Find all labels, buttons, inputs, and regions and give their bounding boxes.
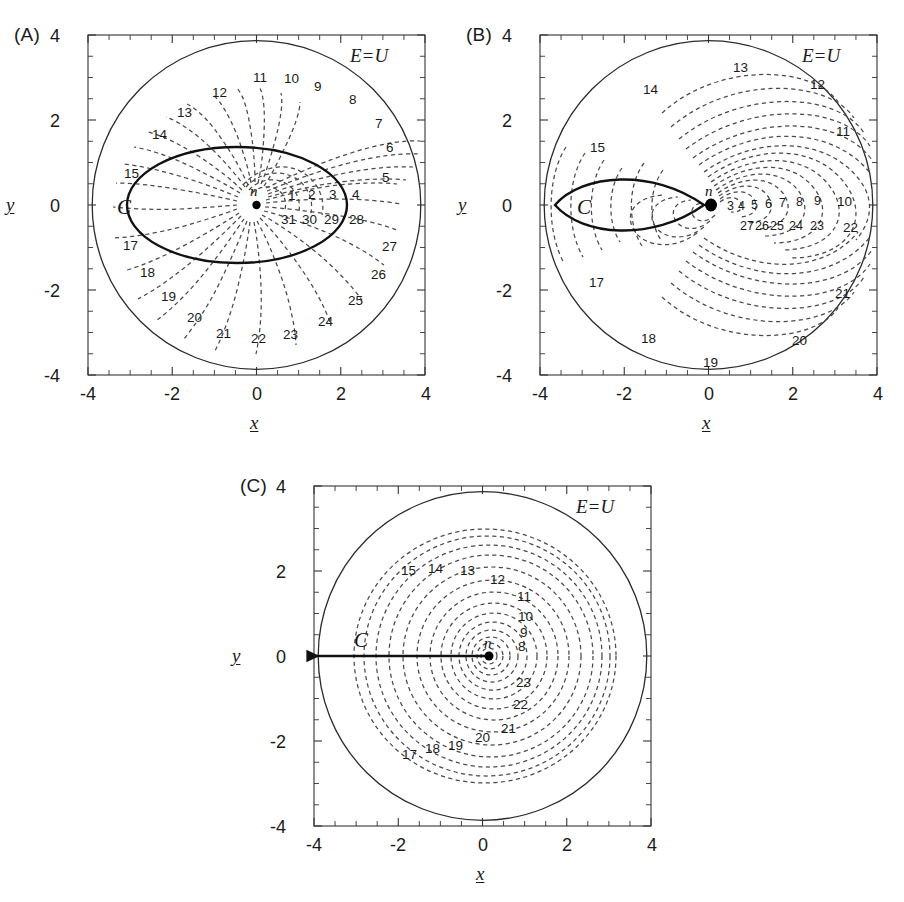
contour-label-4: 4 (352, 187, 360, 202)
contour-label-6: 6 (765, 197, 772, 211)
contour-label-15: 15 (124, 166, 139, 181)
contour-label-13: 13 (177, 105, 192, 120)
panel-b-plot: E=U (452, 0, 904, 451)
contour-label-15: 15 (401, 563, 416, 578)
panel-c-center-label: n (484, 635, 492, 651)
panel-c-plot: E=U C n (226, 451, 678, 902)
contour-label-31: 31 (281, 212, 296, 227)
contour-label-17: 17 (402, 747, 417, 762)
contour-label-23: 23 (283, 327, 298, 342)
contour-label-12: 12 (810, 77, 825, 92)
contour-label-25: 25 (348, 293, 363, 308)
contour-label-24: 24 (789, 219, 803, 233)
contour-label-27: 27 (740, 219, 754, 233)
panel-c-eu-annotation: E=U (575, 496, 615, 517)
contour-label-11: 11 (253, 70, 267, 85)
contour-label-26: 26 (371, 267, 386, 282)
contour-label-13: 13 (733, 60, 748, 75)
contour-label-5: 5 (751, 198, 758, 212)
contour-label-5: 5 (382, 170, 390, 185)
panel-c-center-point (485, 652, 494, 661)
contour-label-19: 19 (703, 355, 718, 370)
contour-label-19: 19 (161, 289, 176, 304)
panel-a-center-point (252, 201, 260, 209)
panel-a-eu-annotation: E=U (349, 45, 389, 66)
contour-label-28: 28 (349, 212, 364, 227)
contour-label-3: 3 (727, 199, 734, 213)
contour-label-20: 20 (187, 310, 202, 325)
contour-label-22: 22 (843, 220, 858, 235)
contour-label-8: 8 (518, 639, 526, 654)
contour-label-8: 8 (796, 195, 803, 209)
contour-label-11: 11 (517, 589, 531, 604)
contour-label-8: 8 (349, 92, 357, 107)
contour-label-22: 22 (251, 331, 266, 346)
contour-label-29: 29 (324, 212, 339, 227)
contour-label-21: 21 (216, 326, 231, 341)
contour-label-9: 9 (814, 194, 821, 208)
contour-label-19: 19 (448, 738, 463, 753)
contour-label-7: 7 (779, 196, 786, 210)
contour-label-14: 14 (643, 82, 659, 97)
contour-label-10: 10 (837, 194, 852, 209)
contour-label-25: 25 (770, 219, 784, 233)
panel-b-center-label: n (705, 183, 713, 199)
contour-label-17: 17 (123, 238, 138, 253)
contour-label-13: 13 (460, 563, 475, 578)
panel-c-caustic-label: C (354, 628, 369, 652)
panel-c-contour-labels: 8 9 10 11 12 13 14 15 17 18 19 20 21 22 … (401, 561, 533, 762)
contour-label-21: 21 (835, 286, 850, 301)
contour-label-4: 4 (738, 199, 745, 213)
contour-label-18: 18 (140, 265, 155, 280)
contour-label-24: 24 (318, 314, 334, 329)
contour-label-23: 23 (810, 219, 824, 233)
panel-a-center-label: n (250, 183, 258, 199)
contour-label-21: 21 (501, 721, 516, 736)
contour-label-15: 15 (590, 140, 605, 155)
contour-label-12: 12 (212, 85, 227, 100)
panel-c: (C) 4 2 0 -2 -4 y -4 -2 0 2 4 x (226, 451, 678, 902)
contour-label-18: 18 (641, 331, 656, 346)
contour-label-6: 6 (386, 140, 394, 155)
panel-a-caustic-label: C (117, 195, 132, 219)
panel-a: (A) 4 2 0 -2 -4 y -4 -2 0 2 4 x (0, 0, 452, 451)
contour-label-18: 18 (425, 741, 440, 756)
contour-label-27: 27 (382, 239, 397, 254)
panel-b-caustic-label: C (577, 195, 592, 219)
panel-b-contour-labels: 3 4 5 6 7 8 9 10 11 12 13 14 15 17 18 19… (589, 60, 858, 370)
contour-label-22: 22 (513, 697, 528, 712)
contour-label-17: 17 (589, 275, 604, 290)
contour-label-9: 9 (314, 79, 322, 94)
contour-label-26: 26 (755, 219, 769, 233)
contour-label-23: 23 (516, 675, 531, 690)
panel-b-center-point (705, 199, 717, 212)
contour-label-10: 10 (518, 609, 533, 624)
contour-label-20: 20 (792, 333, 807, 348)
contour-label-7: 7 (375, 116, 383, 131)
panel-b-eu-annotation: E=U (801, 45, 841, 66)
contour-label-10: 10 (284, 71, 299, 86)
contour-label-1: 1 (288, 188, 296, 203)
panel-a-plot: E=U (0, 0, 452, 451)
contour-label-11: 11 (836, 124, 850, 139)
contour-label-3: 3 (329, 187, 337, 202)
contour-label-14: 14 (152, 127, 168, 142)
contour-label-20: 20 (475, 730, 490, 745)
contour-label-9: 9 (520, 625, 528, 640)
panel-a-contour-labels: 1 2 3 4 5 6 7 8 9 10 11 12 13 14 15 17 1… (123, 70, 397, 346)
contour-label-14: 14 (428, 561, 444, 576)
figure-root: (A) 4 2 0 -2 -4 y -4 -2 0 2 4 x (0, 0, 904, 902)
contour-label-30: 30 (302, 212, 317, 227)
panel-b: (B) 4 2 0 -2 -4 y -4 -2 0 2 4 x (452, 0, 904, 451)
contour-label-2: 2 (308, 187, 316, 202)
contour-label-12: 12 (490, 572, 505, 587)
